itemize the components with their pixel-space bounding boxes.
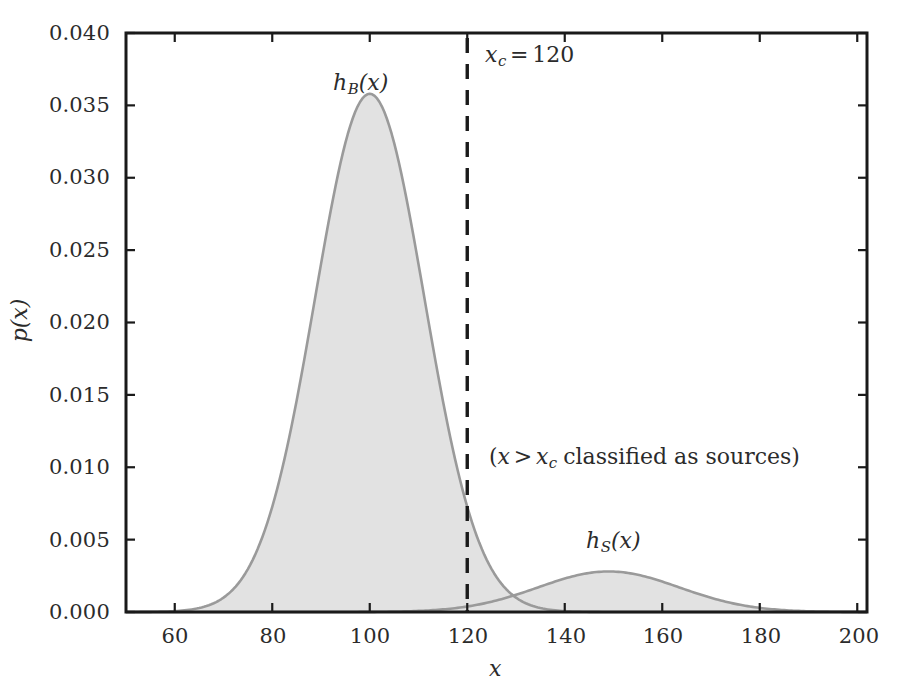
cutoff-subscript: c	[498, 52, 506, 70]
hb-subscript: B	[348, 80, 359, 98]
ytick-label: 0.025	[0, 238, 110, 262]
ytick-label: 0.000	[0, 600, 110, 624]
xtick-label: 200	[819, 624, 899, 648]
hb-base: h	[333, 70, 347, 95]
axes-frame	[126, 33, 867, 612]
xtick-label: 120	[428, 624, 508, 648]
ytick-label: 0.005	[0, 528, 110, 552]
curve-line-hb	[126, 94, 867, 612]
curve-area-hb	[126, 94, 867, 612]
xtick-label: 80	[233, 624, 313, 648]
cutoff-value: 120	[532, 42, 574, 67]
xtick-label: 100	[330, 624, 410, 648]
note-greater-than: >	[514, 444, 532, 469]
cutoff-label: xc=120	[485, 42, 574, 70]
note-close-paren: )	[791, 444, 800, 469]
note-open-paren: (	[489, 444, 498, 469]
cutoff-equals: =	[510, 42, 528, 67]
classification-note: (x>xcclassified as sources)	[489, 444, 800, 472]
y-axis-title-text: p(x)	[7, 299, 32, 343]
ytick-label: 0.030	[0, 165, 110, 189]
xtick-label: 180	[721, 624, 801, 648]
xtick-label: 140	[526, 624, 606, 648]
axis-ticks	[126, 33, 867, 612]
y-axis-title: p(x)	[7, 286, 32, 356]
cutoff-x: x	[485, 42, 497, 67]
hs-arg: (x)	[611, 528, 641, 553]
hs-base: h	[586, 528, 600, 553]
curve-label-hb: hB(x)	[333, 70, 388, 98]
plot-canvas	[0, 0, 902, 687]
curve-label-hs: hS(x)	[586, 528, 641, 556]
ytick-label: 0.040	[0, 21, 110, 45]
ytick-label: 0.015	[0, 383, 110, 407]
chart-figure: 0.040 0.035 0.030 0.025 0.020 0.015 0.01…	[0, 0, 902, 687]
xtick-label: 60	[135, 624, 215, 648]
x-axis-title: x	[489, 656, 501, 681]
hb-arg: (x)	[359, 70, 389, 95]
note-xc-subscript: c	[549, 454, 557, 472]
note-xc: x	[536, 444, 548, 469]
ytick-label: 0.010	[0, 455, 110, 479]
hs-subscript: S	[601, 538, 611, 556]
note-text: classified as sources	[563, 444, 791, 469]
note-x: x	[498, 444, 510, 469]
ytick-label: 0.035	[0, 93, 110, 117]
xtick-label: 160	[623, 624, 703, 648]
